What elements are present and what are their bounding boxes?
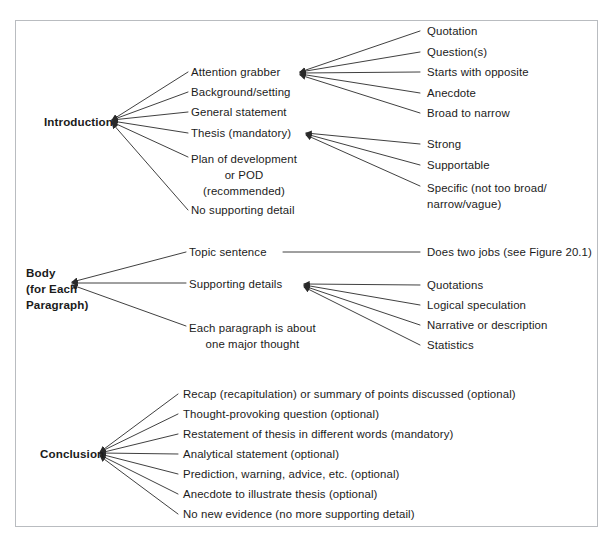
node-conclusion-prediction-warning-advice[interactable]: Prediction, warning, advice, etc. (optio… [183, 468, 399, 481]
node-specific-not-too-broad[interactable]: Specific (not too broad/ narrow/vague) [427, 180, 547, 212]
node-each-paragraph-one-thought[interactable]: Each paragraph is about one major though… [189, 320, 316, 352]
node-does-two-jobs[interactable]: Does two jobs (see Figure 20.1) [427, 246, 592, 259]
node-attention-grabber[interactable]: Attention grabber [191, 66, 280, 79]
node-conclusion-thought-provoking-question[interactable]: Thought-provoking question (optional) [183, 408, 379, 421]
node-strong[interactable]: Strong [427, 138, 461, 151]
node-plan-of-development[interactable]: Plan of development or POD (recommended) [191, 151, 297, 200]
node-thesis-mandatory[interactable]: Thesis (mandatory) [191, 127, 291, 140]
node-supportable[interactable]: Supportable [427, 159, 490, 172]
node-conclusion-analytical-statement[interactable]: Analytical statement (optional) [183, 448, 339, 461]
node-topic-sentence[interactable]: Topic sentence [189, 246, 267, 259]
node-logical-speculation[interactable]: Logical speculation [427, 299, 526, 312]
node-no-supporting-detail[interactable]: No supporting detail [191, 204, 295, 217]
node-narrative-or-description[interactable]: Narrative or description [427, 319, 548, 332]
node-conclusion-recap[interactable]: Recap (recapitulation) or summary of poi… [183, 388, 516, 401]
node-quotation[interactable]: Quotation [427, 25, 477, 38]
node-conclusion[interactable]: Conclusion [40, 447, 104, 460]
node-introduction[interactable]: Introduction [44, 115, 113, 128]
node-statistics[interactable]: Statistics [427, 339, 474, 352]
node-general-statement[interactable]: General statement [191, 106, 287, 119]
node-conclusion-anecdote-to-illustrate-thesis[interactable]: Anecdote to illustrate thesis (optional) [183, 488, 378, 501]
node-conclusion-restatement-of-thesis[interactable]: Restatement of thesis in different words… [183, 428, 453, 441]
node-quotations[interactable]: Quotations [427, 279, 483, 292]
diagram-canvas: Introduction Attention grabber Backgroun… [0, 0, 615, 542]
node-body[interactable]: Body (for Each Paragraph) [26, 265, 88, 314]
node-background-setting[interactable]: Background/setting [191, 86, 291, 99]
node-starts-with-opposite[interactable]: Starts with opposite [427, 66, 529, 79]
node-conclusion-no-new-evidence[interactable]: No new evidence (no more supporting deta… [183, 508, 415, 521]
node-anecdote[interactable]: Anecdote [427, 87, 476, 100]
node-broad-to-narrow[interactable]: Broad to narrow [427, 107, 510, 120]
node-questions[interactable]: Question(s) [427, 46, 487, 59]
node-supporting-details[interactable]: Supporting details [189, 278, 282, 291]
